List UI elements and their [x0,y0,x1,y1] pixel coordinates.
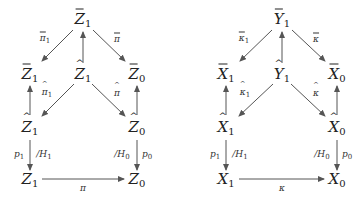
label-sub: 1 [47,153,51,161]
hat-accent: ^ [114,81,120,89]
node-xbar1-midleft: X1 [217,67,234,84]
hat-accent: ^ [75,58,85,68]
node-base: X [217,65,228,83]
arrow-top-to-midright [292,30,325,61]
label-base: π [114,33,120,44]
label-sub: 0 [125,153,129,161]
label-pihat: ^π [114,88,120,98]
node-zbar1-midleft: Z1 [22,67,39,84]
label-kappahat1: ^κ1 [240,87,250,99]
label-base: /H [314,149,325,159]
label-p1: p1 [210,149,220,161]
label-base: κ [313,88,319,98]
label-sub: 1 [46,37,50,45]
node-sub: 1 [85,73,91,84]
hat-accent: ^ [22,111,32,121]
node-sub: 1 [228,178,234,189]
node-base: Y [274,10,284,28]
node-sub: 1 [284,73,290,84]
label-h1: /H1 [36,149,51,161]
label-pi-bottom: π [80,183,86,193]
label-h0: /H0 [314,149,329,161]
label-base: π [80,183,86,193]
hat-accent: ^ [328,111,339,121]
node-base: X [328,65,339,83]
label-kappabar1: κ1 [239,32,249,45]
node-xbar0-midright: X0 [328,67,345,84]
label-sub: 1 [246,91,250,99]
hat-accent: ^ [129,111,139,121]
node-sub: 0 [339,126,345,137]
label-sub: 1 [20,153,24,161]
node-sub: 1 [32,126,38,137]
node-z0-botright: Z0 [129,172,146,189]
hat-accent: ^ [217,111,228,121]
hat-accent: ^ [42,80,48,88]
hat-accent: ^ [274,58,284,68]
node-sub: 1 [32,178,38,189]
label-sub: 0 [348,153,352,161]
label-p0: p0 [142,149,152,161]
node-zhat1-midcenter: ^Z1 [75,67,92,84]
node-xhat0-lowright: ^X0 [328,120,345,137]
node-sub: 0 [339,178,345,189]
node-base: Z [75,10,85,28]
label-sub: 0 [325,153,329,161]
label-base: κ [240,87,246,97]
node-sub: 1 [228,126,234,137]
arrow-midcenter-to-lowright [291,84,325,116]
label-sub: 1 [216,153,220,161]
node-x0-botright: X0 [328,172,345,189]
node-sub: 0 [139,178,145,189]
label-base: π [114,88,120,98]
label-sub: 1 [245,37,249,45]
node-zhat0-lowright: ^Z0 [129,120,146,137]
label-sub: 1 [243,153,247,161]
node-zbar0-midright: Z0 [129,67,146,84]
node-base: Z [129,170,139,188]
node-sub: 1 [32,73,38,84]
label-kappabar: κ [313,33,319,44]
label-base: κ [313,33,319,44]
label-pibar1: π1 [40,32,50,45]
node-base: X [217,170,228,188]
node-ybar1-top: Y1 [274,12,290,29]
arrow-top-to-midright [93,30,125,61]
node-sub: 1 [85,18,91,29]
label-base: /H [114,149,125,159]
node-zbar1-top: Z1 [75,12,92,29]
node-yhat1-midcenter: ^Y1 [274,67,290,84]
arrows-layer [0,0,363,198]
arrow-midcenter-to-lowright [92,84,125,116]
node-sub: 0 [139,73,145,84]
node-base: Z [22,65,32,83]
label-p1: p1 [14,149,24,161]
node-z1-botleft: Z1 [22,172,39,189]
label-pibar: π [114,33,120,44]
node-base: Z [22,170,32,188]
node-x1-botleft: X1 [217,172,234,189]
node-sub: 0 [139,126,145,137]
label-sub: 0 [148,153,152,161]
node-sub: 1 [228,73,234,84]
hat-accent: ^ [313,81,319,89]
node-sub: 0 [339,73,345,84]
hat-accent: ^ [240,80,246,88]
label-h0: /H0 [114,149,129,161]
label-p0: p0 [342,149,352,161]
label-kappahat: ^κ [313,88,319,98]
label-base: π [42,87,48,97]
label-pihat1: ^π1 [42,87,52,99]
node-xhat1-lowleft: ^X1 [217,120,234,137]
label-base: κ [279,183,285,193]
node-base: Z [129,65,139,83]
label-base: /H [232,149,243,159]
node-sub: 1 [284,18,290,29]
node-zhat1-lowleft: ^Z1 [22,120,39,137]
label-base: /H [36,149,47,159]
label-sub: 1 [48,91,52,99]
node-base: X [328,170,339,188]
label-h1: /H1 [232,149,247,161]
label-kappa-bottom: κ [279,183,285,193]
